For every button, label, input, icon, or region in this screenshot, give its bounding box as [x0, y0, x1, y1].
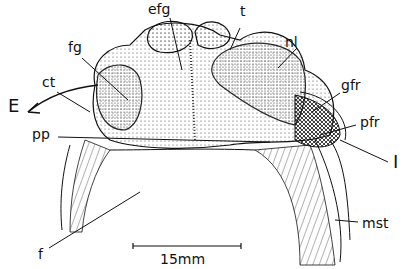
drawing	[0, 0, 405, 269]
label-fg: fg	[68, 40, 82, 54]
label-efg: efg	[148, 2, 170, 16]
anatomical-figure: efg t fg nl ct gfr E pp pfr I mst f 15mm	[0, 0, 405, 269]
scale-bar	[133, 243, 241, 249]
E-arrow	[28, 85, 98, 112]
label-pfr: pfr	[360, 115, 380, 129]
left-fibers	[70, 140, 110, 232]
label-mst: mst	[362, 216, 388, 230]
label-ct: ct	[42, 75, 55, 89]
label-t: t	[240, 4, 246, 18]
scale-bar-label: 15mm	[160, 252, 205, 266]
label-nl: nl	[285, 35, 298, 49]
label-pp: pp	[32, 127, 50, 141]
label-f: f	[38, 247, 43, 261]
mst-muscle	[255, 145, 335, 265]
label-gfr: gfr	[341, 78, 361, 92]
label-I: I	[393, 153, 398, 171]
label-E: E	[8, 97, 19, 115]
efg-lobe	[148, 21, 193, 52]
